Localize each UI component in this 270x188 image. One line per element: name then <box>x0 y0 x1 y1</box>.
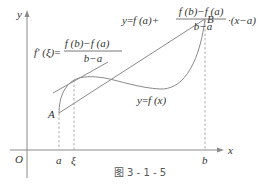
x-axis-label: x <box>227 144 233 156</box>
secant-line-ab <box>59 19 205 113</box>
mean-value-theorem-figure: y x O a ξ b A B y=f (x) <box>0 0 270 188</box>
origin-label: O <box>15 153 23 165</box>
tick-label-xi: ξ <box>71 154 76 167</box>
tick-label-a: a <box>56 154 62 166</box>
figure-caption: 图 3 - 1 - 5 <box>114 167 166 178</box>
secant-line-formula: y=f (a)+ f (b)−f (a) b−a ·(x−a) <box>121 5 256 32</box>
svg-text:y=f (a)+: y=f (a)+ <box>121 14 159 27</box>
svg-text:b−a: b−a <box>194 20 213 32</box>
svg-text:y=f (x): y=f (x) <box>136 94 166 107</box>
x-axis: x <box>10 144 233 156</box>
tangent-slope-formula: f′ (ξ)= f (b)−f (a) b−a <box>34 37 122 64</box>
svg-text:f′ (ξ)=: f′ (ξ)= <box>34 46 60 59</box>
svg-text:f (b)−f (a): f (b)−f (a) <box>179 5 224 18</box>
tick-label-b: b <box>202 154 208 166</box>
y-axis-arrow-icon <box>25 10 30 17</box>
svg-text:b−a: b−a <box>84 52 103 64</box>
svg-text:·(x−a): ·(x−a) <box>228 14 256 27</box>
point-label-a: A <box>47 108 55 120</box>
y-axis-label: y <box>16 8 22 20</box>
svg-text:f (b)−f (a): f (b)−f (a) <box>65 37 110 50</box>
curve-label: y=f (x) <box>136 94 166 107</box>
x-axis-arrow-icon <box>217 148 224 153</box>
